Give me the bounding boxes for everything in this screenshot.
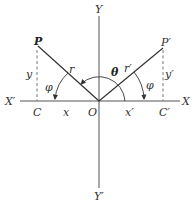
polar-coordinate-diagram: Y Y′ X′ X P P′ C C′ O x x′ y y′ r r′ φ φ… xyxy=(0,0,194,207)
label-c: C xyxy=(33,106,42,119)
phi-arc-right xyxy=(134,72,144,99)
label-y: y xyxy=(25,68,33,81)
label-origin: O xyxy=(88,106,97,119)
label-theta: θ xyxy=(111,66,119,79)
label-r-prime: r′ xyxy=(124,62,132,75)
label-x-prime: x′ xyxy=(125,106,134,119)
label-point-p: P xyxy=(33,35,43,48)
label-phi-right: φ xyxy=(146,79,154,92)
label-x-axis-neg: X′ xyxy=(4,95,16,108)
label-x-axis: X xyxy=(181,95,191,108)
label-x: x xyxy=(63,106,70,119)
label-y-axis: Y xyxy=(95,3,104,16)
label-y-axis-neg: Y′ xyxy=(94,190,104,203)
label-phi-left: φ xyxy=(45,81,53,94)
label-r: r xyxy=(69,63,75,76)
label-c-prime: C′ xyxy=(159,106,170,119)
label-point-p-prime: P′ xyxy=(160,36,171,49)
phi-arc-left xyxy=(55,73,68,99)
label-y-prime: y′ xyxy=(164,68,174,81)
